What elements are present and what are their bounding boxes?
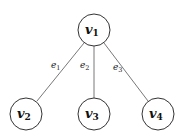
- edge-e1: [37, 43, 84, 101]
- node-v2: v2: [10, 98, 42, 130]
- node-v3: v3: [78, 98, 110, 130]
- tree-diagram: e1 e2 e3 v1 v2 v3 v4: [0, 0, 187, 137]
- edge-label-e2: e2: [80, 60, 89, 72]
- edge-label-e1: e1: [51, 60, 60, 72]
- edge-label-e3: e3: [113, 62, 122, 74]
- edge-e3: [104, 43, 148, 101]
- node-v4: v4: [142, 98, 174, 130]
- node-v1: v1: [78, 14, 110, 46]
